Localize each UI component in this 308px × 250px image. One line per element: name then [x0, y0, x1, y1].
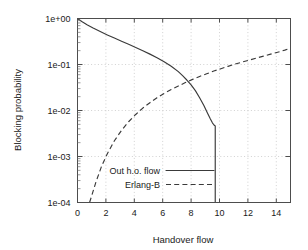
x-tick-label: 0 — [75, 208, 80, 218]
x-tick-label: 8 — [189, 208, 194, 218]
chart-figure: 02468101214 1e+001e-011e-021e-031e-04 Ha… — [0, 0, 308, 250]
x-tick-label: 4 — [132, 208, 137, 218]
x-axis-title: Handover flow — [153, 234, 214, 245]
x-tick-label: 10 — [214, 208, 224, 218]
y-axis-title: Blocking probability — [12, 69, 23, 151]
y-tick-label: 1e-02 — [47, 106, 70, 116]
y-tick-label: 1e-03 — [47, 152, 70, 162]
blocking-probability-line-chart: 02468101214 1e+001e-011e-021e-031e-04 Ha… — [0, 0, 308, 250]
x-tick-label: 6 — [160, 208, 165, 218]
x-tick-label: 12 — [243, 208, 253, 218]
y-tick-label: 1e+00 — [45, 14, 70, 24]
legend-label-erlang-b: Erlang-B — [125, 180, 160, 190]
y-tick-label: 1e-04 — [47, 198, 70, 208]
y-tick-label: 1e-01 — [47, 60, 70, 70]
chart-background — [0, 0, 308, 250]
x-tick-label: 2 — [103, 208, 108, 218]
x-tick-label: 14 — [271, 208, 281, 218]
legend-label-out-ho-flow: Out h.o. flow — [109, 166, 160, 176]
